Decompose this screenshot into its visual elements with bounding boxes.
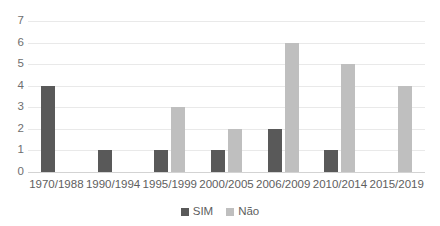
bar-group — [368, 21, 425, 172]
x-axis-tick-label: 2010/2014 — [312, 174, 369, 194]
bar-group — [28, 21, 85, 172]
bar-nao — [285, 43, 299, 172]
bar-sim — [98, 150, 112, 172]
legend-label: SIM — [193, 206, 213, 218]
bar-chart: 76543210 1970/19881990/19941995/19992000… — [0, 0, 440, 226]
y-axis-tick-label: 0 — [2, 166, 24, 178]
bar-nao — [341, 64, 355, 172]
y-axis-tick-label: 6 — [2, 37, 24, 49]
axis-baseline — [28, 172, 425, 173]
bar-sim — [41, 86, 55, 172]
bar-group — [198, 21, 255, 172]
y-axis-tick-label: 2 — [2, 123, 24, 135]
bar-group — [312, 21, 369, 172]
legend-label: Não — [238, 206, 259, 218]
legend-item[interactable]: SIM — [181, 206, 213, 218]
bar-groups — [28, 21, 425, 172]
bar-group — [85, 21, 142, 172]
y-axis: 76543210 — [0, 21, 24, 172]
y-axis-tick-label: 1 — [2, 145, 24, 157]
y-axis-tick-label: 3 — [2, 102, 24, 114]
bar-sim — [324, 150, 338, 172]
legend-item[interactable]: Não — [226, 206, 259, 218]
x-axis-tick-label: 1990/1994 — [85, 174, 142, 194]
y-axis-tick-label: 5 — [2, 58, 24, 70]
bar-nao — [228, 129, 242, 172]
bar-group — [141, 21, 198, 172]
x-axis-tick-label: 2000/2005 — [198, 174, 255, 194]
bar-nao — [171, 107, 185, 172]
x-axis-tick-label: 2015/2019 — [368, 174, 425, 194]
bar-sim — [154, 150, 168, 172]
y-axis-tick-label: 7 — [2, 15, 24, 27]
x-axis-tick-label: 2006/2009 — [255, 174, 312, 194]
chart-legend: SIMNão — [0, 202, 440, 222]
bar-group — [255, 21, 312, 172]
legend-swatch-icon — [226, 208, 234, 216]
y-axis-tick-label: 4 — [2, 80, 24, 92]
x-axis-tick-label: 1995/1999 — [141, 174, 198, 194]
bar-sim — [211, 150, 225, 172]
bar-sim — [268, 129, 282, 172]
bar-nao — [398, 86, 412, 172]
x-axis-tick-label: 1970/1988 — [28, 174, 85, 194]
x-axis: 1970/19881990/19941995/19992000/20052006… — [28, 174, 425, 194]
legend-swatch-icon — [181, 208, 189, 216]
